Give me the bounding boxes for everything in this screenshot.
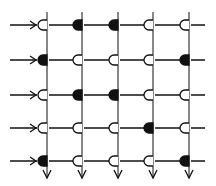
filled-junction-icon — [180, 55, 189, 65]
filled-junction-icon — [109, 90, 118, 100]
open-junction-icon — [180, 90, 189, 100]
open-junction-icon — [109, 55, 118, 65]
open-junction-icon — [109, 123, 118, 133]
open-junction-icon — [38, 90, 47, 100]
filled-junction-icon — [109, 20, 118, 30]
open-junction-icon — [73, 55, 82, 65]
open-junction-icon — [144, 90, 153, 100]
open-junction-icon — [73, 156, 82, 166]
open-junction-icon — [144, 156, 153, 166]
open-junction-icon — [180, 20, 189, 30]
open-junction-icon — [38, 20, 47, 30]
open-junction-icon — [109, 156, 118, 166]
open-junction-icon — [180, 123, 189, 133]
crossbar-diagram — [0, 0, 216, 186]
filled-junction-icon — [38, 55, 47, 65]
filled-junction-icon — [38, 156, 47, 166]
filled-junction-icon — [144, 123, 153, 133]
open-junction-icon — [38, 123, 47, 133]
filled-junction-icon — [73, 20, 82, 30]
filled-junction-icon — [180, 156, 189, 166]
open-junction-icon — [144, 55, 153, 65]
filled-junction-icon — [73, 90, 82, 100]
open-junction-icon — [73, 123, 82, 133]
open-junction-icon — [144, 20, 153, 30]
